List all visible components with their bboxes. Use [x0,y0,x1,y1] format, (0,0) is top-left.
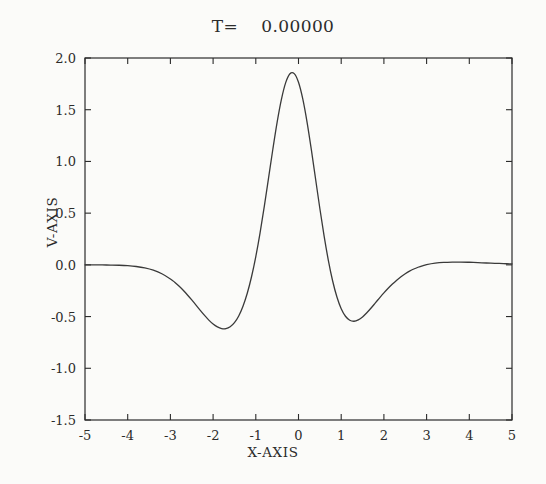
data-series-group [85,73,512,329]
y-axis-ticks [85,58,512,420]
y-axis-label: V-AXIS [44,162,60,282]
x-tick-label: -1 [249,428,262,443]
x-tick-label: 2 [380,428,388,443]
plot-figure: T= 0.00000 -5-4-3-2-1012345 2.01.51.00.5… [0,0,546,484]
plot-canvas [0,0,546,484]
x-tick-label: 3 [422,428,430,443]
x-tick-label: -5 [79,428,92,443]
x-tick-label: -2 [207,428,220,443]
x-tick-label: 4 [465,428,473,443]
y-tick-label: 2.0 [55,51,76,66]
plot-frame [85,58,512,420]
x-tick-label: 5 [508,428,516,443]
x-tick-label: -4 [121,428,134,443]
y-tick-label: -1.5 [51,413,76,428]
y-tick-label: 1.5 [55,102,76,117]
x-tick-label: 1 [337,428,345,443]
series-line-v [85,73,512,329]
x-axis-ticks [85,58,512,420]
y-tick-label: -1.0 [51,361,76,376]
x-tick-label: -3 [164,428,177,443]
x-tick-label: 0 [294,428,302,443]
y-tick-label: -0.5 [51,309,76,324]
x-axis-label: X-AXIS [0,444,546,460]
